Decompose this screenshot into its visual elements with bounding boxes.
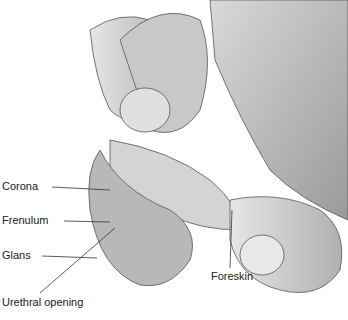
label-corona: Corona — [2, 180, 38, 192]
label-urethral-opening: Urethral opening — [2, 296, 83, 308]
label-frenulum: Frenulum — [2, 214, 48, 226]
anatomical-illustration — [0, 0, 348, 320]
label-glans: Glans — [2, 249, 31, 261]
label-foreskin: Foreskin — [211, 270, 253, 282]
